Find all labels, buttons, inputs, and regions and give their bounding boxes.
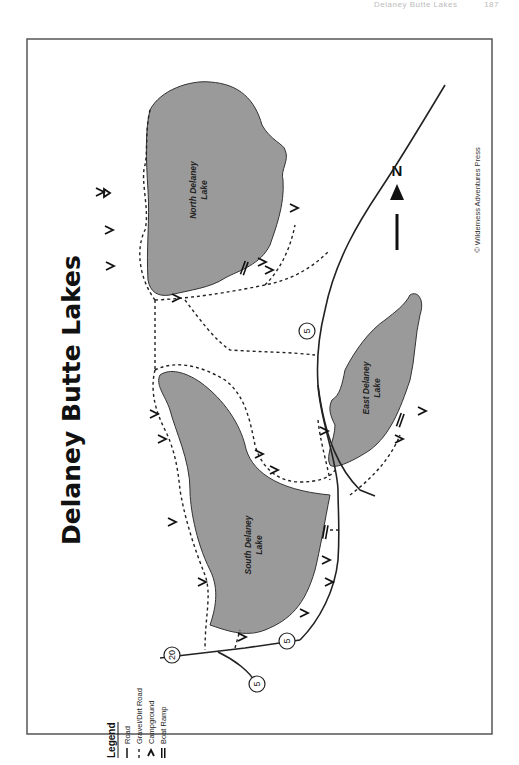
south-delaney-lake [159, 371, 330, 633]
campground-icon [322, 556, 330, 564]
campground-icon [325, 578, 333, 586]
campground-icon [300, 609, 308, 617]
north-arrow: N [390, 162, 404, 250]
campground-icon [96, 188, 104, 196]
campground-icon [168, 518, 176, 526]
north-lake-label-line1: North Delaney [188, 160, 198, 219]
svg-text:5: 5 [252, 681, 262, 686]
legend-item-boat-ramp: Boat Ramp [159, 706, 168, 758]
campground-icon [418, 407, 426, 415]
campground-icon [290, 204, 298, 212]
campground-icon [106, 262, 114, 270]
svg-text:Boat Ramp: Boat Ramp [159, 706, 168, 744]
north-delaney-lake [146, 82, 286, 296]
svg-text:20: 20 [167, 650, 177, 660]
east-lake-label-line1: East Delaney [361, 360, 371, 414]
campground-icon [238, 633, 246, 641]
legend-title: Legend [106, 722, 117, 758]
campground-icon [150, 410, 158, 418]
legend-item-gravel-road: Gravel/Dirt Road [135, 688, 144, 758]
svg-text:5: 5 [282, 638, 292, 643]
campground-icon [104, 189, 110, 197]
legend: Legend Road Gravel/Dirt Road Campground … [106, 688, 168, 758]
county-road-5-south-spur [218, 652, 255, 682]
campground-icon [265, 266, 273, 274]
legend-item-road: Road [123, 726, 132, 758]
campground-icon [255, 450, 263, 458]
north-lake-label-line2: Lake [199, 180, 209, 200]
route-shield-5-spur: 5 [249, 676, 265, 692]
campground-icon [258, 258, 266, 266]
svg-text:Road: Road [123, 726, 132, 744]
campground-icon [198, 578, 206, 586]
campground-icon [105, 226, 113, 234]
campground-icon [158, 435, 166, 443]
south-lake-label-line2: Lake [254, 535, 264, 555]
boat-ramp-icon [161, 748, 166, 758]
route-shield-20: 20 [164, 647, 180, 663]
route-shield-5-south: 5 [279, 633, 295, 649]
dirt-road-connector-diagonal [185, 300, 315, 355]
campground-icon [148, 750, 154, 756]
legend-item-campground: Campground [147, 701, 156, 756]
map-figure: Delaney Butte Lakes © Wilderness Adventu… [0, 0, 519, 765]
svg-text:5: 5 [302, 328, 312, 333]
south-lake-label-line1: South Delaney [243, 514, 253, 574]
svg-text:Campground: Campground [147, 701, 156, 744]
route-shield-5-north: 5 [299, 323, 315, 339]
north-arrow-icon [390, 184, 404, 200]
map-title: Delaney Butte Lakes [57, 255, 86, 545]
campground-icon [270, 466, 278, 474]
east-lake-label-line2: Lake [372, 378, 382, 398]
copyright-text: © Wilderness Adventures Press [473, 147, 482, 253]
svg-text:Gravel/Dirt Road: Gravel/Dirt Road [135, 688, 144, 744]
